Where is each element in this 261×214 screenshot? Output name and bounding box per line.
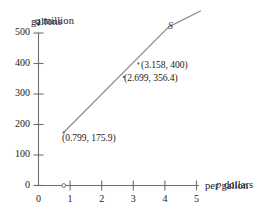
curve-label-s: S [168, 21, 173, 32]
x-tick-label-2: 2 [95, 194, 109, 205]
annotation-point-3158-400: (3.158, 400) [141, 60, 188, 70]
x-tick-label-4: 4 [158, 194, 172, 205]
x-axis-title-line2: per gallon [205, 180, 248, 191]
y-tick-label-500: 500 [4, 27, 30, 38]
x-tick-label-1: 1 [63, 194, 77, 205]
x-tick-label-5: 5 [190, 194, 204, 205]
y-tick-label-0: 0 [4, 180, 30, 191]
x-tick-label-0: 0 [32, 194, 46, 205]
supply-line-extension [169, 11, 201, 27]
y-tick-label-300: 300 [4, 88, 30, 99]
supply-curve-figure: q million gallons p dollars per gallon 5… [0, 0, 261, 214]
y-axis-title-line2: gallons [31, 16, 62, 27]
y-tick-label-200: 200 [4, 119, 30, 130]
x-tick-label-3: 3 [126, 194, 140, 205]
open-circle-marker [62, 184, 66, 188]
y-tick-label-100: 100 [4, 149, 30, 160]
annotation-point-0799-1759: (0.799, 175.9) [62, 133, 116, 143]
data-point-2 [137, 62, 139, 64]
y-tick-label-400: 400 [4, 58, 30, 69]
annotation-point-2699-3564: (2.699, 356.4) [124, 73, 178, 83]
